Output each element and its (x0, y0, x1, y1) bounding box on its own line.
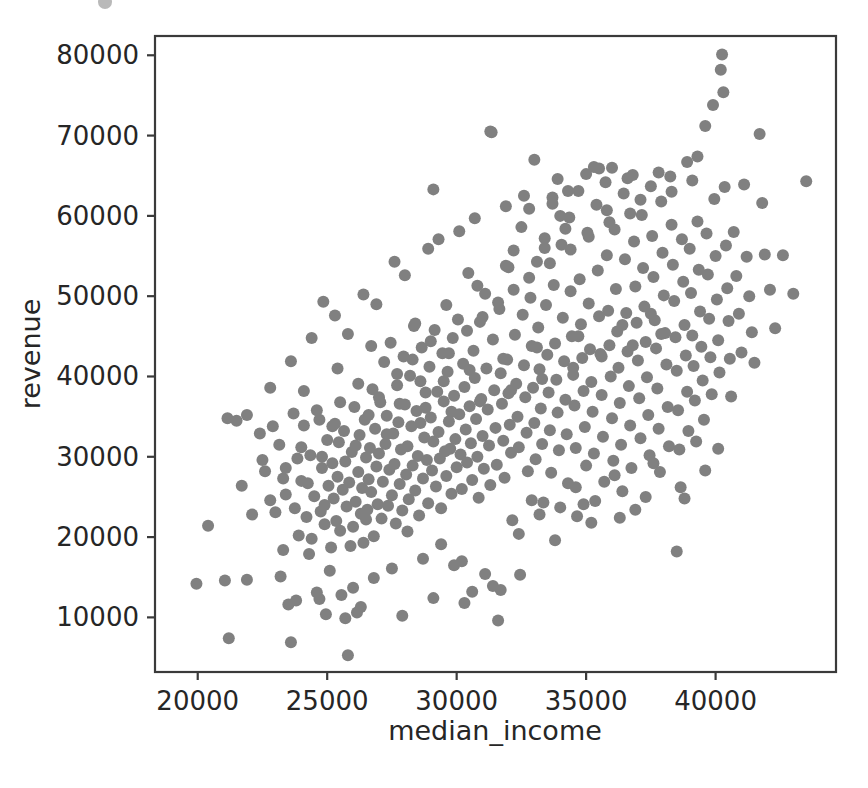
scatter-point (435, 538, 447, 550)
scatter-point (357, 537, 369, 549)
scatter-point (370, 298, 382, 310)
scatter-point (452, 313, 464, 325)
scatter-point (347, 582, 359, 594)
scatter-point (390, 517, 402, 529)
scatter-point (368, 572, 380, 584)
scatter-point (453, 225, 465, 237)
scatter-point (365, 340, 377, 352)
scatter-point (676, 233, 688, 245)
scatter-point (530, 453, 542, 465)
scatter-point (627, 339, 639, 351)
scatter-point (701, 228, 713, 240)
scatter-point (492, 297, 504, 309)
scatter-point (409, 317, 421, 329)
scatter-points-group (190, 48, 812, 661)
scatter-point (557, 312, 569, 324)
scatter-point (710, 250, 722, 262)
scatter-point (345, 540, 357, 552)
scatter-point (724, 353, 736, 365)
scatter-point (553, 444, 565, 456)
scatter-point (291, 452, 303, 464)
scatter-point (447, 332, 459, 344)
scatter-point (306, 533, 318, 545)
scatter-point (508, 244, 520, 256)
scatter-point (625, 462, 637, 474)
scatter-point (600, 176, 612, 188)
scatter-point (715, 64, 727, 76)
scatter-point (477, 311, 489, 323)
y-tick-label: 20000 (56, 522, 139, 552)
scatter-point (562, 185, 574, 197)
scatter-point (721, 282, 733, 294)
scatter-point (326, 457, 338, 469)
scatter-point (769, 322, 781, 334)
scatter-point (612, 362, 624, 374)
scatter-point (699, 120, 711, 132)
scatter-point (496, 398, 508, 410)
scatter-point (491, 459, 503, 471)
scatter-point (598, 476, 610, 488)
scatter-point (691, 150, 703, 162)
y-tick-label: 80000 (56, 40, 139, 70)
scatter-point (464, 364, 476, 376)
scatter-point (461, 456, 473, 468)
scatter-point (713, 366, 725, 378)
scatter-point (298, 385, 310, 397)
scatter-point (508, 284, 520, 296)
x-tick-label: 35000 (545, 686, 628, 716)
scatter-point (487, 334, 499, 346)
scatter-point (609, 469, 621, 481)
scatter-point (303, 548, 315, 560)
scatter-point (647, 271, 659, 283)
scatter-point (426, 464, 438, 476)
y-axis-ticks (147, 55, 155, 617)
scatter-point (241, 574, 253, 586)
scatter-point (445, 488, 457, 500)
scatter-point (680, 350, 692, 362)
x-tick-label: 40000 (674, 686, 757, 716)
scatter-point (443, 347, 455, 359)
scatter-point (438, 395, 450, 407)
scatter-point (433, 426, 445, 438)
scatter-point (686, 175, 698, 187)
scatter-point (677, 276, 689, 288)
scatter-point (615, 439, 627, 451)
scatter-point (285, 355, 297, 367)
scatter-point (641, 371, 653, 383)
scatter-point (616, 485, 628, 497)
scatter-point (386, 489, 398, 501)
scatter-point (466, 586, 478, 598)
scatter-point (414, 417, 426, 429)
scatter-point (474, 395, 486, 407)
scatter-point (304, 449, 316, 461)
scatter-point (777, 249, 789, 261)
scatter-point (526, 494, 538, 506)
scatter-point (675, 481, 687, 493)
scatter-point (488, 384, 500, 396)
scatter-point (316, 451, 328, 463)
scatter-point (673, 444, 685, 456)
scatter-point (401, 525, 413, 537)
scatter-point (723, 315, 735, 327)
scatter-point (427, 183, 439, 195)
scatter-point (624, 419, 636, 431)
scatter-point (746, 326, 758, 338)
scatter-point (392, 416, 404, 428)
scatter-point (682, 425, 694, 437)
scatter-point (438, 375, 450, 387)
scatter-point (707, 99, 719, 111)
scatter-point (298, 419, 310, 431)
scatter-point (190, 578, 202, 590)
scatter-point (484, 126, 496, 138)
scatter-point (357, 289, 369, 301)
scatter-point (295, 441, 307, 453)
scatter-point (695, 341, 707, 353)
scatter-point (522, 465, 534, 477)
scatter-point (499, 472, 511, 484)
scatter-point (256, 454, 268, 466)
scatter-point (537, 497, 549, 509)
scatter-point (725, 391, 737, 403)
scatter-point (666, 186, 678, 198)
scatter-point (332, 471, 344, 483)
scatter-point (259, 465, 271, 477)
